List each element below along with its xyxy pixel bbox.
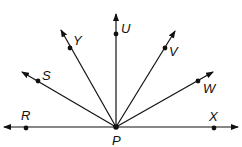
label-r: R bbox=[21, 108, 30, 123]
label-p: P bbox=[112, 133, 121, 147]
ray-PV bbox=[116, 31, 175, 127]
rays-diagram: RXSYUVWP bbox=[0, 0, 242, 147]
point-v bbox=[163, 46, 168, 51]
label-y: Y bbox=[73, 33, 83, 48]
geometry-diagram: RXSYUVWP bbox=[0, 0, 242, 147]
label-x: X bbox=[208, 109, 219, 124]
point-r bbox=[24, 126, 29, 131]
point-x bbox=[212, 126, 217, 131]
label-w: W bbox=[203, 81, 217, 96]
point-s bbox=[36, 79, 41, 84]
label-u: U bbox=[121, 21, 131, 36]
point-w bbox=[196, 79, 201, 84]
ray-PY bbox=[61, 30, 116, 127]
label-v: V bbox=[169, 44, 179, 59]
point-u bbox=[114, 32, 119, 37]
point-p bbox=[113, 124, 119, 130]
label-s: S bbox=[42, 68, 51, 83]
point-y bbox=[68, 46, 73, 51]
